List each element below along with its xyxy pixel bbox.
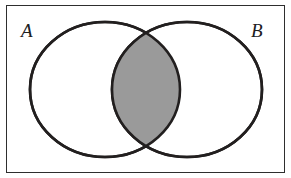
venn-canvas (0, 0, 291, 178)
venn-diagram-figure: A B (0, 0, 291, 178)
set-b-label: B (251, 21, 263, 40)
set-a-label: A (21, 21, 33, 40)
